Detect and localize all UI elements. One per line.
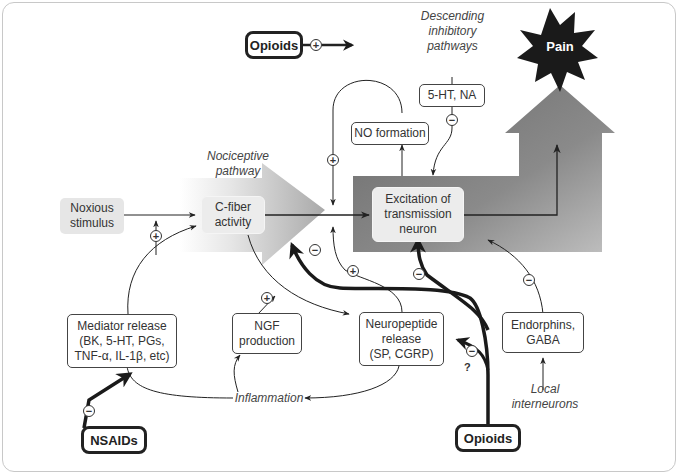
excitation-box: Excitation of transmission neuron [372, 187, 464, 242]
nociceptive-line-1: Nociceptive [207, 149, 269, 164]
minus-sign-opioid-neuropeptide: − [466, 345, 478, 357]
descending-pathways-label: Descending inhibitory pathways [405, 7, 500, 55]
no-formation-box: NO formation [351, 122, 429, 145]
ht-na-box: 5-HT, NA [419, 84, 485, 107]
minus-sign-endorphins: − [523, 274, 535, 286]
inflammation-to-mediator-line [127, 366, 233, 398]
excitation-line-2: transmission [384, 207, 451, 222]
plus-sign-opioids-descending: + [310, 39, 322, 51]
minus-sign-nsaids: − [83, 405, 95, 417]
endorphins-line-2: GABA [526, 333, 559, 348]
nociceptive-line-2: pathway [216, 164, 261, 179]
descending-line-1: Descending [421, 9, 484, 24]
noxious-line-1: Noxious [70, 201, 113, 216]
local-line-2: interneurons [512, 397, 579, 412]
mediator-release-box: Mediator release (BK, 5-HT, PGs, TNF-α, … [67, 314, 177, 368]
cfiber-line-1: C-fiber [215, 200, 251, 215]
inflammation-label: Inflammation [234, 391, 304, 406]
neuropeptide-to-inflammation-arrow [305, 366, 399, 398]
plus-sign-no-formation: + [327, 154, 339, 166]
endorphins-line-1: Endorphins, [511, 318, 575, 333]
plus-sign-ngf: + [261, 292, 273, 304]
inflammation-to-ngf-arrow [234, 355, 240, 392]
descending-line-2: inhibitory [428, 24, 476, 39]
ngf-production-box: NGF production [232, 313, 302, 354]
neuropeptide-line-1: Neuropeptide [365, 317, 437, 332]
cfiber-activity-box: C-fiber activity [201, 196, 265, 234]
cfiber-line-2: activity [215, 215, 252, 230]
opioids-bottom-box: Opioids [455, 424, 521, 452]
minus-sign-opioid-excitation: − [413, 268, 425, 280]
pain-label: Pain [535, 36, 585, 56]
excitation-line-1: Excitation of [385, 192, 450, 207]
question-mark: ? [464, 361, 471, 373]
nsaids-box: NSAIDs [81, 426, 147, 454]
ngf-line-2: production [239, 334, 295, 349]
neuropeptide-release-box: Neuropeptide release (SP, CGRP) [359, 312, 444, 366]
endorphins-gaba-box: Endorphins, GABA [502, 312, 584, 353]
ngf-line-1: NGF [254, 319, 279, 334]
local-line-1: Local [531, 382, 560, 397]
mediator-line-2: (BK, 5-HT, PGs, [79, 334, 164, 349]
minus-sign-ht-na: − [446, 114, 458, 126]
opioids-top-box: Opioids [245, 31, 303, 59]
neuropeptide-line-2: release [382, 332, 421, 347]
plus-sign-neuropeptide: + [347, 265, 359, 277]
noxious-stimulus-box: Noxious stimulus [60, 198, 124, 234]
excitation-line-3: neuron [399, 222, 436, 237]
neuropeptide-line-3: (SP, CGRP) [370, 347, 434, 362]
mediator-line-1: Mediator release [77, 319, 166, 334]
local-interneurons-label: Local interneurons [505, 380, 585, 414]
descending-line-3: pathways [427, 39, 478, 54]
noxious-line-2: stimulus [70, 216, 114, 231]
nociceptive-pathway-label: Nociceptive pathway [198, 148, 278, 180]
plus-sign-mediator: + [150, 230, 162, 242]
mediator-line-3: TNF-α, IL-1β, etc) [74, 349, 169, 364]
minus-sign-opioid-cfiber: − [309, 244, 321, 256]
nsaids-to-mediator-thick-arrow [84, 374, 130, 428]
